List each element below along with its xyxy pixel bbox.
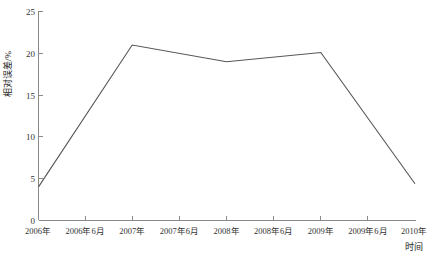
x-tick-label-7: 2009年6月 [348, 226, 387, 236]
y-axis-title: 相对误差/% [2, 50, 13, 97]
x-tick-label-2: 2007年 [119, 226, 145, 236]
x-tick-label-8: 2010年 [401, 226, 427, 236]
x-tick-label-0: 2006年 [25, 226, 51, 236]
data-series-line [39, 45, 416, 187]
x-tick-label-5: 2008年6月 [254, 226, 293, 236]
x-tick-labels: 2006年 2006年6月 2007年 2007年6月 2008年 2008年6… [25, 226, 427, 236]
y-tick-label-15: 15 [26, 91, 36, 101]
x-tick-marks [85, 216, 368, 221]
y-tick-labels: 25 20 15 10 5 0 [26, 7, 36, 226]
chart-canvas: 25 20 15 10 5 0 2006年 2006年6月 2007年 2007… [0, 0, 444, 259]
x-tick-label-4: 2008年 [214, 226, 240, 236]
y-tick-marks [39, 12, 44, 221]
y-tick-label-20: 20 [26, 49, 36, 59]
y-tick-label-25: 25 [26, 7, 36, 17]
y-tick-label-10: 10 [26, 132, 36, 142]
y-tick-label-0: 0 [31, 216, 36, 226]
relative-error-line-chart: 25 20 15 10 5 0 2006年 2006年6月 2007年 2007… [0, 0, 444, 259]
x-tick-label-6: 2009年 [308, 226, 334, 236]
x-tick-label-1: 2006年6月 [65, 226, 104, 236]
x-axis-title: 时间 [405, 241, 423, 252]
x-tick-label-3: 2007年6月 [160, 226, 199, 236]
y-tick-label-5: 5 [31, 174, 36, 184]
